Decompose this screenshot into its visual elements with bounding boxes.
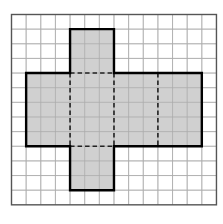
net-face-face-1 (26, 73, 70, 146)
net-face-face-3 (114, 73, 158, 146)
net-face-top-tab (70, 29, 114, 73)
net-diagram-svg (0, 0, 223, 224)
grid-diagram (0, 0, 223, 224)
net-face-bottom-tab (70, 146, 114, 190)
net-face-face-4 (158, 73, 202, 146)
net-face-face-2 (70, 73, 114, 146)
